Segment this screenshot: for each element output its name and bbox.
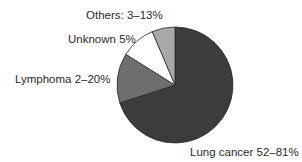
label-others: Others: 3–13% [86, 9, 163, 21]
label-lung-cancer: Lung cancer 52–81% [190, 146, 299, 158]
label-unknown: Unknown 5% [68, 33, 136, 45]
label-lymphoma: Lymphoma 2–20% [15, 73, 110, 85]
